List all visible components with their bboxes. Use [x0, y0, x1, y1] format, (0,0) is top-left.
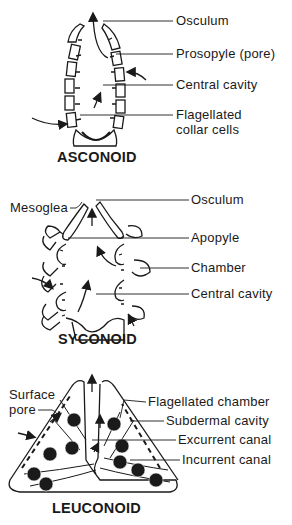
- leuconoid-label-subdermal-cavity: Subdermal cavity: [166, 414, 269, 428]
- leuconoid-excurrent-arrow-center: [94, 444, 98, 452]
- asconoid-inflow-arrow-right: [128, 72, 146, 80]
- syconoid-label-osculum: Osculum: [191, 193, 244, 207]
- leuconoid-title: LEUCONOID: [52, 500, 141, 516]
- syconoid-label-apopyle: Apopyle: [191, 231, 239, 245]
- leuconoid-label-incurrent-canal: Incurrent canal: [182, 453, 271, 467]
- asconoid-label-prosopyle: Prosopyle (pore): [176, 47, 275, 61]
- syconoid-diagram: [32, 200, 189, 340]
- leuconoid-label-flagellated-chamber: Flagellated chamber: [148, 395, 270, 409]
- syconoid-label-chamber: Chamber: [191, 261, 246, 275]
- leuconoid-flagellated-chambers: [27, 413, 163, 491]
- asconoid-label-central-cavity: Central cavity: [176, 78, 258, 92]
- asconoid-label-osculum: Osculum: [176, 14, 229, 28]
- leuconoid-label-surface: Surface: [9, 388, 55, 402]
- leuconoid-label-pore: pore: [9, 403, 36, 417]
- leuconoid-label-excurrent-canal: Excurrent canal: [178, 433, 271, 447]
- asconoid-cavity-arrow: [94, 94, 100, 108]
- syconoid-left-chambers: [42, 226, 66, 330]
- syconoid-title: SYCONOID: [58, 331, 137, 347]
- syconoid-cavity-arrow-left: [78, 282, 88, 312]
- leuconoid-inflow-arrow-left: [18, 433, 34, 437]
- asconoid-right-wall: [102, 24, 125, 129]
- syconoid-label-mesoglea: Mesoglea: [10, 201, 68, 215]
- asconoid-label-collar-cells: collar cells: [176, 123, 239, 137]
- asconoid-inflow-arrow-left: [32, 118, 66, 124]
- asconoid-diagram: [32, 14, 173, 146]
- asconoid-title: ASCONOID: [57, 149, 137, 165]
- syconoid-label-central-cavity: Central cavity: [191, 287, 273, 301]
- asconoid-label-flagellated: Flagellated: [176, 108, 242, 122]
- syconoid-right-osculum-lip: [96, 202, 123, 238]
- syconoid-right-chambers: [115, 226, 150, 320]
- syconoid-cavity-arrow-right: [98, 248, 116, 266]
